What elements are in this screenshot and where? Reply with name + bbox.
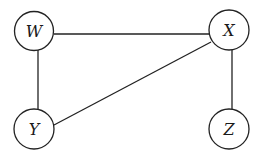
node-label-w: W (26, 22, 44, 41)
graph-svg: W X Y Z (0, 0, 261, 160)
node-label-y: Y (29, 120, 41, 139)
edge-x-y (54, 42, 211, 125)
node-label-x: X (221, 21, 235, 40)
node-label-z: Z (222, 120, 235, 139)
graph-diagram: W X Y Z (0, 0, 261, 160)
